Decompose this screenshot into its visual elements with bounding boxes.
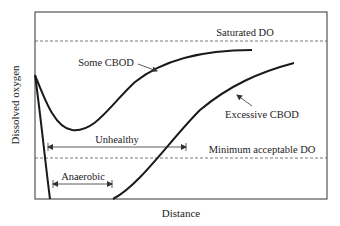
excessive-cbod-pointer-arrow (237, 95, 252, 106)
anaerobic-label: Anaerobic (61, 171, 105, 182)
do-sag-diagram: Saturated DO Minimum acceptable DO Some … (0, 0, 340, 226)
some-cbod-curve (35, 50, 252, 130)
y-axis-label: Dissolved oxygen (9, 65, 21, 145)
saturated-do-label: Saturated DO (216, 27, 274, 38)
excessive-cbod-recovery-curve (113, 63, 294, 199)
some-cbod-label: Some CBOD (78, 57, 134, 68)
minimum-do-label: Minimum acceptable DO (209, 144, 316, 155)
unhealthy-label: Unhealthy (95, 134, 139, 145)
x-axis-label: Distance (162, 207, 201, 219)
excessive-cbod-label: Excessive CBOD (225, 109, 299, 120)
some-cbod-pointer-arrow (138, 64, 157, 71)
